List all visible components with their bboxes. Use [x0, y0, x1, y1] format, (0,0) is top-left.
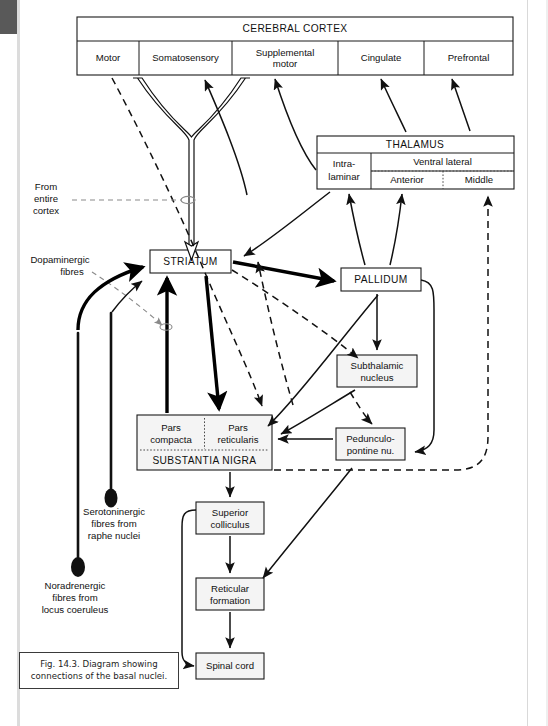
pars-reticularis-line1: Pars [228, 422, 248, 433]
arrow-subthalamic-to-sn [281, 390, 355, 434]
arrow-striatum-to-subthalamic-dashed [232, 270, 358, 358]
pars-compacta-line1: Pars [161, 422, 181, 433]
substantia-nigra-label: SUBSTANTIA NIGRA [152, 455, 256, 466]
spinal-cord-label: Spinal cord [206, 660, 254, 671]
cerebral-cortex-box: CEREBRAL CORTEX Motor Somatosensory Supp… [77, 17, 513, 75]
serotoninergic-line1: Serotoninergic [83, 506, 145, 517]
thalamus-box: THALAMUS Intra- laminar Ventral lateral … [317, 136, 514, 189]
substantia-nigra-box: Pars compacta Pars reticularis SUBSTANTI… [137, 415, 272, 470]
superior-colliculus-line2: colliculus [211, 519, 250, 530]
cortex-region-supplemental-motor-line2: motor [273, 58, 298, 69]
dopaminergic-line1: Dopaminergic [30, 254, 89, 265]
from-entire-cortex-line2: entire [34, 193, 58, 204]
arrow-sn-ascending-dashed [258, 262, 293, 405]
serotoninergic-line3: raphe nuclei [88, 530, 140, 541]
from-entire-cortex-line3: cortex [33, 205, 59, 216]
arrow-subthalamic-to-pedunculopontine-dashed [350, 392, 372, 424]
thalamus-intralaminar-line2: laminar [328, 171, 360, 182]
line-dopaminergic-dashed [92, 272, 162, 325]
noradrenergic-line3: locus coeruleus [42, 604, 109, 615]
arrow-pallidum-to-intralaminar [349, 194, 365, 265]
figure-caption-line2: connections of the basal nuclei. [31, 671, 167, 683]
noradrenergic-fibre-terminal [71, 557, 85, 577]
arrow-striatum-to-pallidum [233, 262, 334, 281]
cortex-region-motor: Motor [96, 52, 121, 63]
pars-compacta-line2: compacta [150, 434, 192, 445]
subthalamic-nucleus-box: Subthalamic nucleus [337, 355, 417, 387]
figure-root: CEREBRAL CORTEX Motor Somatosensory Supp… [0, 0, 548, 726]
afferent-labels: From entire cortex Dopaminergic fibres S… [30, 181, 145, 615]
arrow-motor-to-sn-dashed [112, 78, 262, 406]
arrow-superior-colliculus-to-spinal-cord [182, 510, 196, 666]
cortex-region-prefrontal: Prefrontal [448, 52, 490, 63]
thalamus-middle: Middle [465, 174, 493, 185]
figure-caption-box: Fig. 14.3. Diagram showing connections o… [19, 652, 179, 689]
serotoninergic-line2: fibres from [91, 518, 136, 529]
from-entire-cortex-line1: From [35, 181, 57, 192]
arrow-pallidum-to-ventral-lateral [390, 194, 402, 265]
arrow-to-somatosensory [205, 80, 247, 195]
spinal-cord-box: Spinal cord [196, 653, 264, 679]
pars-reticularis-line2: reticularis [217, 434, 258, 445]
noradrenergic-line2: fibres from [52, 592, 97, 603]
pedunculopontine-nucleus-box: Pedunculo- pontine nu. [336, 428, 405, 460]
arrow-to-prefrontal [452, 79, 470, 131]
cortex-title: CEREBRAL CORTEX [243, 23, 348, 34]
pallidum-box: PALLIDUM [341, 268, 421, 291]
cortex-region-cingulate: Cingulate [361, 52, 402, 63]
cortex-region-supplemental-motor-line1: Supplemental [256, 47, 315, 58]
thalamus-anterior: Anterior [390, 174, 424, 185]
subthalamic-line1: Subthalamic [351, 360, 404, 371]
dopaminergic-line2: fibres [60, 266, 84, 277]
reticular-formation-box: Reticular formation [196, 578, 264, 610]
figure-caption-line1: Fig. 14.3. Diagram showing [40, 659, 157, 671]
thalamus-intralaminar-line1: Intra- [333, 158, 355, 169]
arrow-thalamus-to-supplemental-motor [275, 79, 316, 170]
arrow-serotoninergic-to-striatum [112, 281, 142, 312]
arrow-pallidum-to-pedunculopontine [415, 280, 434, 452]
superior-colliculus-box: Superior colliculus [196, 502, 264, 534]
basal-nuclei-diagram: CEREBRAL CORTEX Motor Somatosensory Supp… [0, 0, 548, 726]
corticostriate-hollow-arrow [133, 78, 250, 260]
pedunculopontine-line2: pontine nu. [347, 445, 394, 456]
reticular-formation-line1: Reticular [211, 583, 250, 594]
reticular-formation-line2: formation [210, 595, 250, 606]
thalamus-title: THALAMUS [386, 139, 444, 150]
cortex-region-somatosensory: Somatosensory [152, 52, 219, 63]
pallidum-label: PALLIDUM [354, 274, 407, 285]
arrow-striatum-to-sn [206, 276, 219, 409]
superior-colliculus-line1: Superior [212, 507, 249, 518]
serotoninergic-fibre-terminal [105, 489, 118, 508]
noradrenergic-line1: Noradrenergic [45, 580, 106, 591]
subthalamic-line2: nucleus [360, 372, 393, 383]
thalamus-ventral-lateral: Ventral lateral [413, 156, 472, 167]
arrow-pedunculopontine-to-reticular [263, 468, 352, 578]
arrow-to-cingulate [381, 79, 406, 132]
arrow-intralaminar-to-striatum [244, 192, 330, 256]
pedunculopontine-line1: Pedunculo- [346, 433, 395, 444]
